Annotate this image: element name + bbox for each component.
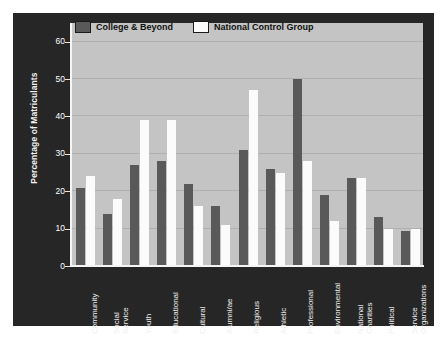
bar-national-control-group [221, 225, 230, 266]
x-tick-label-line: Religious [252, 301, 261, 334]
x-tick-label: Athletic [279, 308, 288, 334]
chart-figure: Percentage of Matriculants 0102030405060… [13, 13, 434, 326]
bar-college-and-beyond [293, 79, 302, 266]
x-tick-label: Environmental [333, 283, 342, 334]
bar-group [76, 23, 95, 266]
y-tick-mark [65, 116, 70, 117]
bar-group [320, 23, 339, 266]
y-tick-mark [65, 229, 70, 230]
bar-national-control-group [330, 221, 339, 266]
y-tick-label: 50 [21, 75, 65, 84]
bar-national-control-group [303, 161, 312, 266]
y-tick-label: 10 [21, 224, 65, 233]
legend-swatch [75, 21, 91, 33]
x-tick-label: Educational [171, 292, 180, 334]
y-axis-line [70, 23, 72, 267]
bar-college-and-beyond [239, 150, 248, 266]
bar-national-control-group [276, 173, 285, 266]
bar-college-and-beyond [266, 169, 275, 266]
x-tick-label-line: Social [112, 307, 121, 334]
x-tick-label: Political [387, 306, 396, 334]
legend-swatch [193, 21, 209, 33]
bar-college-and-beyond [347, 178, 356, 266]
bar-national-control-group [113, 199, 122, 266]
x-tick-label: Professional [306, 290, 315, 334]
x-tick-label-line: National [356, 302, 365, 334]
x-tick-label: Religious [252, 301, 261, 334]
bar-college-and-beyond [374, 217, 383, 266]
bar-group [239, 23, 258, 266]
legend-item[interactable]: National Control Group [193, 18, 314, 35]
legend-label: College & Beyond [96, 22, 173, 32]
x-tick-label-line: Alumni/ae [225, 298, 234, 334]
y-tick-label: 40 [21, 112, 65, 121]
bar-national-control-group [140, 120, 149, 266]
bar-college-and-beyond [103, 214, 112, 266]
bar-college-and-beyond [320, 195, 329, 266]
bar-college-and-beyond [76, 188, 85, 267]
x-tick-label-line: Professional [306, 290, 315, 334]
x-tick-label: Cultural [198, 306, 207, 334]
x-tick-label: NationalCharities [356, 302, 374, 334]
x-tick-label: Youth [144, 314, 153, 334]
x-tick-label: SocialService [112, 307, 130, 334]
x-tick-label-line: Educational [171, 292, 180, 334]
legend-item[interactable]: College & Beyond [75, 18, 173, 35]
x-axis-line [71, 265, 424, 267]
x-tick-label-line: Athletic [279, 308, 288, 334]
bar-group [103, 23, 122, 266]
plot-area [71, 23, 423, 266]
bar-national-control-group [249, 90, 258, 266]
bar-college-and-beyond [157, 161, 166, 266]
bar-group [184, 23, 203, 266]
bar-college-and-beyond [401, 231, 410, 267]
bar-group [157, 23, 176, 266]
y-tick-mark [65, 154, 70, 155]
bar-group [374, 23, 393, 266]
x-tick-label: Alumni/ae [225, 298, 234, 334]
y-tick-mark [65, 42, 70, 43]
y-tick-label: 20 [21, 187, 65, 196]
bar-national-control-group [167, 120, 176, 266]
x-tick-label-line: Service [121, 307, 130, 334]
bar-group [401, 23, 420, 266]
y-tick-mark [65, 191, 70, 192]
x-tick-label-line: Cultural [198, 306, 207, 334]
y-tick-mark [65, 266, 70, 267]
x-tick-label: ServiceOrganizations [410, 285, 428, 334]
x-tick-label-line: Environmental [333, 283, 342, 334]
legend-label: National Control Group [214, 22, 314, 32]
bar-national-control-group [411, 229, 420, 266]
bar-college-and-beyond [184, 184, 193, 266]
bar-college-and-beyond [211, 206, 220, 266]
y-tick-label: 30 [21, 149, 65, 158]
bar-group [347, 23, 366, 266]
bar-national-control-group [194, 206, 203, 266]
bar-national-control-group [86, 176, 95, 266]
y-tick-label: 0 [21, 262, 65, 271]
bar-college-and-beyond [130, 165, 139, 266]
y-tick-label: 60 [21, 37, 65, 46]
bar-group [293, 23, 312, 266]
x-tick-label-line: Organizations [419, 285, 428, 334]
x-tick-label-line: Charities [365, 302, 374, 334]
x-tick-label-line: Community [90, 294, 99, 334]
bar-national-control-group [384, 229, 393, 266]
bar-group [211, 23, 230, 266]
x-tick-label-line: Service [410, 285, 419, 334]
x-tick-label-line: Youth [144, 314, 153, 334]
x-tick-label: Community [90, 294, 99, 334]
y-tick-mark [65, 79, 70, 80]
bar-national-control-group [357, 178, 366, 266]
x-tick-label-line: Political [387, 306, 396, 334]
bar-group [266, 23, 285, 266]
bar-group [130, 23, 149, 266]
